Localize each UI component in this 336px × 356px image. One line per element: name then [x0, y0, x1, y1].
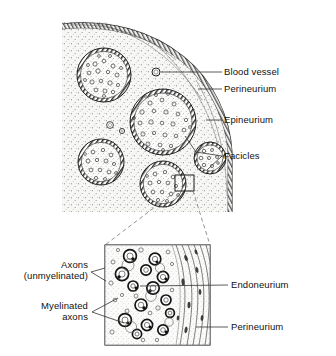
- blood-vessel-main: [152, 68, 160, 76]
- label-axons-line1: Axons: [0, 259, 88, 271]
- label-perineurium-top: Perineurium: [224, 83, 276, 95]
- label-blood-vessel: Blood vessel: [224, 66, 279, 78]
- label-endoneurium: Endoneurium: [231, 279, 289, 291]
- label-axons-line2: (unmyelinated): [0, 270, 88, 282]
- label-myelinated-line1: Myelinated: [0, 300, 88, 312]
- overview-panel: [62, 21, 232, 245]
- nerve-cross-section-figure: Blood vessel Perineurium Epineurium Faci…: [0, 0, 336, 356]
- label-myelinated-line2: axons: [0, 311, 88, 323]
- blood-vessel-a: [107, 122, 114, 129]
- fascicle-5: [194, 142, 226, 174]
- fascicle-2: [130, 89, 196, 155]
- label-epineurium: Epineurium: [224, 114, 273, 126]
- fascicle-4: [140, 161, 186, 207]
- fascicle-3: [78, 139, 124, 185]
- label-perineurium-bottom: Perineurium: [231, 321, 283, 333]
- fascicle-1: [77, 48, 131, 102]
- label-facicles: Facicles: [224, 150, 260, 162]
- blood-vessel-b: [119, 128, 124, 133]
- detail-panel: [91, 245, 228, 345]
